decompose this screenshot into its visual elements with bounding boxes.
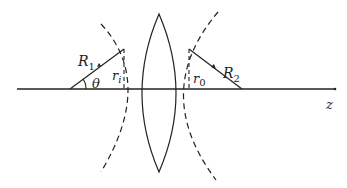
axis-end-dot	[334, 88, 337, 91]
surface-2-arc	[183, 12, 218, 180]
lens	[142, 14, 176, 172]
surface-1-arc	[101, 24, 128, 172]
label-theta: θ	[92, 76, 100, 91]
label-z: z	[325, 97, 333, 112]
lens-diagram: R1 θ ri r0 R2 z	[0, 0, 347, 188]
label-ri: ri	[112, 68, 121, 85]
theta-arc	[83, 79, 86, 89]
radius-r2-arrow-icon	[211, 64, 216, 69]
label-r0: r0	[193, 71, 206, 88]
label-R1: R1	[77, 53, 95, 72]
